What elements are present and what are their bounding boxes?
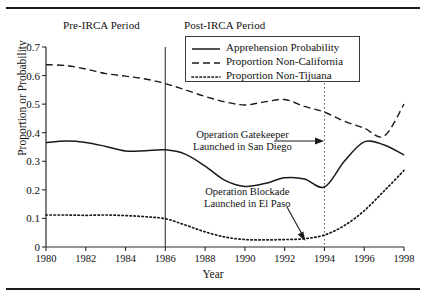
figure-container: Pre-IRCA Period Post-IRCA Period Proport… xyxy=(0,0,426,302)
x-tick-marks xyxy=(46,247,404,251)
annotation-gatekeeper-line1: Operation Gatekeeper xyxy=(193,129,292,141)
legend-item-0: Apprehension Probability xyxy=(191,40,354,54)
legend-label-2: Proportion Non-Tijuana xyxy=(226,69,332,81)
legend-item-1: Proportion Non-California xyxy=(191,54,354,68)
legend-label-0: Apprehension Probability xyxy=(226,41,339,53)
annotation-blockade-line1: Operation Blockade xyxy=(204,186,291,198)
annotation-blockade-line2: Launched in El Paso xyxy=(204,198,291,210)
legend-label-1: Proportion Non-California xyxy=(226,55,343,67)
chart-legend: Apprehension ProbabilityProportion Non-C… xyxy=(185,36,360,82)
legend-swatch-dotted xyxy=(191,69,221,81)
legend-swatch-solid xyxy=(191,41,221,53)
blockade-arrow-shaft xyxy=(287,207,303,236)
annotation-operation-blockade: Operation Blockade Launched in El Paso xyxy=(204,186,291,210)
legend-item-2: Proportion Non-Tijuana xyxy=(191,68,354,82)
legend-swatch-dashed xyxy=(191,55,221,67)
annotation-gatekeeper-line2: Launched in San Diego xyxy=(193,141,292,153)
gatekeeper-arrow-head xyxy=(315,138,324,145)
annotation-operation-gatekeeper: Operation Gatekeeper Launched in San Die… xyxy=(193,129,292,153)
